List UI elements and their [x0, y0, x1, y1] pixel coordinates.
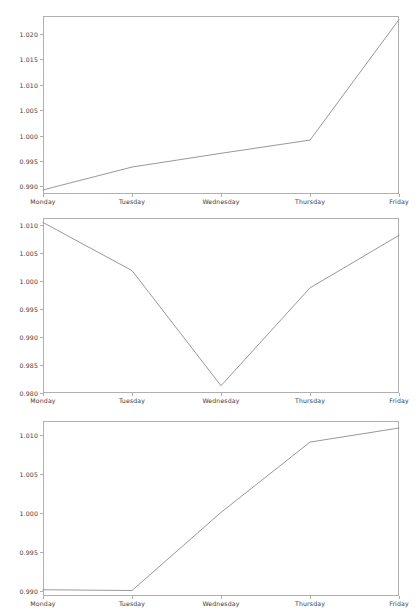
y-tick-label: 0.995	[20, 157, 38, 164]
x-tick-label: Thursday	[295, 600, 325, 607]
figure-canvas: 0.9900.9951.0001.0051.0101.0151.020 Mond…	[0, 0, 419, 616]
x-tick-label: Tuesday	[119, 600, 145, 607]
y-tick-mark	[40, 85, 43, 86]
y-tick-mark	[40, 513, 43, 514]
y-tick-label: 0.990	[20, 334, 38, 341]
y-tick-mark	[40, 337, 43, 338]
y-tick-label: 1.020	[20, 30, 38, 37]
y-tick-mark	[40, 225, 43, 226]
y-tick-label: 1.005	[20, 107, 38, 114]
x-tick-mark	[132, 194, 133, 197]
subplot-top: 0.9900.9951.0001.0051.0101.0151.020 Mond…	[0, 0, 419, 208]
x-tick-label: Wednesday	[202, 397, 239, 404]
y-tick-label: 0.985	[20, 362, 38, 369]
line-plot-middle	[43, 218, 399, 393]
data-series-line-top	[43, 20, 399, 190]
y-tick-label: 0.995	[20, 549, 38, 556]
y-tick-mark	[40, 136, 43, 137]
x-tick-mark	[221, 393, 222, 396]
x-tick-label: Monday	[30, 397, 55, 404]
x-tick-mark	[310, 393, 311, 396]
y-tick-mark	[40, 365, 43, 366]
y-tick-mark	[40, 435, 43, 436]
y-tick-label: 1.000	[20, 278, 38, 285]
subplot-middle: 0.9800.9850.9900.9951.0001.0051.010 Mond…	[0, 203, 419, 406]
x-tick-mark	[43, 393, 44, 396]
data-series-line-bottom	[43, 428, 399, 591]
y-tick-label: 0.990	[20, 588, 38, 595]
x-tick-mark	[132, 393, 133, 396]
x-tick-mark	[43, 596, 44, 599]
x-tick-mark	[399, 596, 400, 599]
y-tick-label: 1.005	[20, 250, 38, 257]
x-tick-mark	[399, 194, 400, 197]
line-plot-bottom	[43, 421, 399, 596]
data-series-line-middle	[43, 222, 399, 385]
y-tick-mark	[40, 59, 43, 60]
y-tick-label: 0.995	[20, 306, 38, 313]
x-tick-mark	[310, 194, 311, 197]
x-tick-mark	[43, 194, 44, 197]
y-tick-mark	[40, 281, 43, 282]
y-tick-label: 1.010	[20, 81, 38, 88]
y-tick-label: 1.005	[20, 471, 38, 478]
x-tick-mark	[221, 194, 222, 197]
y-tick-label: 1.010	[20, 432, 38, 439]
x-tick-label: Friday	[389, 397, 409, 404]
x-tick-mark	[310, 596, 311, 599]
y-tick-label: 1.010	[20, 222, 38, 229]
y-tick-label: 0.990	[20, 183, 38, 190]
line-plot-top	[43, 16, 399, 194]
y-tick-label: 1.000	[20, 132, 38, 139]
y-tick-mark	[40, 34, 43, 35]
x-tick-label: Tuesday	[119, 397, 145, 404]
x-tick-mark	[221, 596, 222, 599]
y-tick-mark	[40, 474, 43, 475]
y-tick-label: 1.000	[20, 510, 38, 517]
subplot-bottom: 0.9900.9951.0001.0051.010 MondayTuesdayW…	[0, 406, 419, 616]
y-tick-mark	[40, 253, 43, 254]
y-tick-mark	[40, 309, 43, 310]
y-tick-mark	[40, 161, 43, 162]
y-tick-mark	[40, 552, 43, 553]
y-tick-mark	[40, 186, 43, 187]
y-tick-mark	[40, 591, 43, 592]
y-tick-mark	[40, 110, 43, 111]
x-tick-label: Thursday	[295, 397, 325, 404]
y-tick-label: 0.980	[20, 390, 38, 397]
x-tick-mark	[132, 596, 133, 599]
x-tick-label: Friday	[389, 600, 409, 607]
x-tick-label: Wednesday	[202, 600, 239, 607]
y-tick-label: 1.015	[20, 56, 38, 63]
x-tick-label: Monday	[30, 600, 55, 607]
x-tick-mark	[399, 393, 400, 396]
